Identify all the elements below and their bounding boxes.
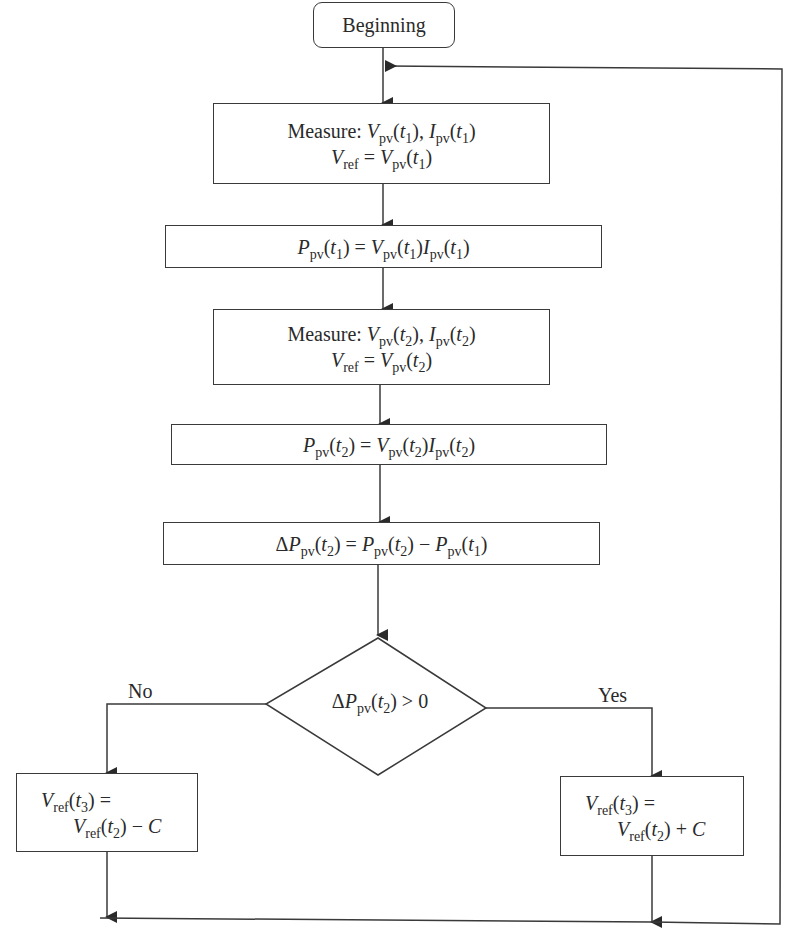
measure1-line2: Vref = Vpv(t1) bbox=[331, 144, 432, 170]
power2-formula: Ppv(t2) = Vpv(t2)Ipv(t2) bbox=[303, 432, 475, 458]
edge-yes-branch bbox=[486, 708, 652, 776]
power2-box: Ppv(t2) = Vpv(t2)Ipv(t2) bbox=[171, 424, 607, 465]
yes-label: Yes bbox=[598, 684, 627, 707]
decision-condition: ΔPpv(t2) > 0 bbox=[300, 690, 460, 713]
delta-formula: ΔPpv(t2) = Ppv(t2) − Ppv(t1) bbox=[276, 531, 488, 557]
decrease-box: Vref(t3) = Vref(t2) − C bbox=[16, 773, 198, 852]
edge-no-branch bbox=[107, 704, 266, 773]
start-label: Beginning bbox=[342, 12, 425, 38]
measure1-line1: Measure: Vpv(t1), Ipv(t1) bbox=[287, 118, 475, 144]
delta-box: ΔPpv(t2) = Ppv(t2) − Ppv(t1) bbox=[163, 522, 600, 565]
start-terminal: Beginning bbox=[313, 2, 455, 48]
measure2-line1: Measure: Vpv(t2), Ipv(t2) bbox=[287, 321, 475, 347]
decrease-line1: Vref(t3) = bbox=[41, 787, 111, 813]
measure2-box: Measure: Vpv(t2), Ipv(t2) Vref = Vpv(t2) bbox=[213, 309, 550, 385]
increase-line1: Vref(t3) = bbox=[585, 790, 655, 816]
decrease-line2: Vref(t2) − C bbox=[41, 813, 161, 839]
power1-formula: Ppv(t1) = Vpv(t1)Ipv(t1) bbox=[297, 234, 469, 260]
measure2-line2: Vref = Vpv(t2) bbox=[331, 347, 432, 373]
power1-box: Ppv(t1) = Vpv(t1)Ipv(t1) bbox=[165, 225, 602, 268]
measure1-box: Measure: Vpv(t1), Ipv(t1) Vref = Vpv(t1) bbox=[213, 103, 550, 184]
no-label: No bbox=[128, 680, 152, 703]
increase-box: Vref(t3) = Vref(t2) + C bbox=[560, 776, 744, 856]
increase-line2: Vref(t2) + C bbox=[585, 816, 705, 842]
